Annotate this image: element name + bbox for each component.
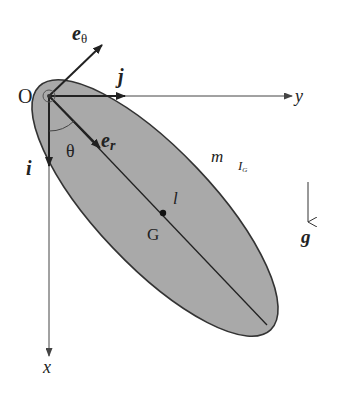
- unit-j-label: j: [115, 65, 124, 88]
- x-axis-label: x: [42, 357, 51, 377]
- center-of-mass-label: G: [147, 225, 159, 244]
- e-theta-label: eθ: [72, 22, 87, 46]
- length-label: l: [173, 189, 178, 208]
- pendulum-diagram: O y x i j eθ er θ m IG l G g: [0, 0, 340, 400]
- center-of-mass-point: [160, 210, 166, 216]
- gravity-label: g: [300, 226, 311, 247]
- unit-i-label: i: [26, 157, 32, 179]
- pivot-point: [47, 94, 51, 98]
- origin-label: O: [18, 85, 32, 107]
- y-axis-label: y: [293, 86, 303, 106]
- inertia-label: IG: [237, 158, 247, 174]
- mass-label: m: [211, 147, 223, 166]
- theta-label: θ: [66, 141, 75, 161]
